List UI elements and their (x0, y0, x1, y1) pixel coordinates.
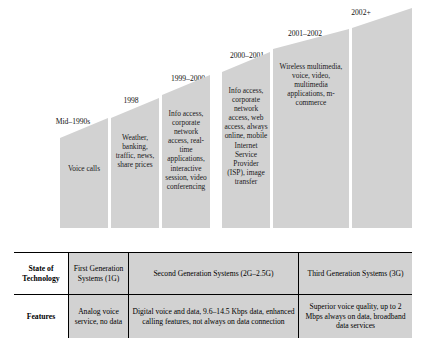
step-bar-text-2: Weather, banking, traffic, news, share p… (113, 133, 157, 169)
cell-3g-technology: Third Generation Systems (3G) (298, 253, 412, 294)
technology-summary-table: State of Technology First Generation Sys… (14, 252, 412, 336)
cell-3g-features: Superior voice quality, up to 2 Mbps alw… (298, 295, 412, 338)
row-header-features: Features (14, 295, 68, 338)
cell-2g-technology: Second Generation Systems (2G–2.5G) (128, 253, 298, 294)
cell-2g-features: Digital voice and data, 9.6–14.5 Kbps da… (128, 295, 298, 338)
step-bar-text-3: Info access, corporate network access, r… (164, 109, 208, 191)
step-bar-5: Wireless multimedia, voice, video, multi… (273, 49, 349, 228)
step-bar-6 (352, 28, 412, 228)
step-bar-text-4: Info access, corporate network access, w… (224, 86, 268, 186)
step-bar-1: Voice calls (60, 138, 108, 228)
step-year-label-3: 1999–2000 (155, 74, 221, 83)
table-row: State of Technology First Generation Sys… (14, 253, 412, 294)
step-year-label-4: 2000–2001 (214, 51, 280, 60)
cell-1g-technology: First Generation Systems (1G) (68, 253, 128, 294)
staircase-chart: Mid–1990s Voice calls 1998 Weather, bank… (0, 0, 427, 228)
step-bar-4: Info access, corporate network access, w… (222, 72, 270, 228)
cell-1g-features: Analog voice service, no data (68, 295, 128, 338)
step-bar-text-5: Wireless multimedia, voice, video, multi… (275, 62, 347, 107)
row-header-state-of-technology: State of Technology (14, 253, 68, 294)
step-bar-2: Weather, banking, traffic, news, share p… (111, 118, 159, 228)
figure-root: Mid–1990s Voice calls 1998 Weather, bank… (0, 0, 427, 341)
table-row: Features Analog voice service, no data D… (14, 294, 412, 338)
step-bar-text-1: Voice calls (62, 164, 106, 173)
step-bar-3: Info access, corporate network access, r… (162, 95, 210, 228)
step-year-label-6: 2002+ (335, 8, 387, 17)
